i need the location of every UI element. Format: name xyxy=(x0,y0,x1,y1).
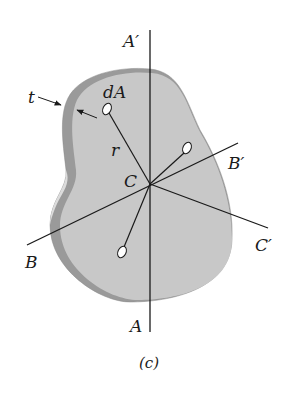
label-radius: r xyxy=(111,140,120,160)
label-axis-a-top: A′ xyxy=(121,31,139,51)
label-center: C xyxy=(124,171,137,191)
label-axis-b-left: B xyxy=(24,252,38,272)
figure-caption: (c) xyxy=(139,354,159,372)
plate-face xyxy=(60,72,232,300)
label-axis-b-right: B′ xyxy=(227,153,244,173)
label-area-element: dA xyxy=(103,82,126,102)
label-thickness: t xyxy=(28,87,35,107)
label-axis-a-bottom: A xyxy=(128,316,142,336)
diagram-canvas: A′ t dA r C B′ C′ B A (c) xyxy=(0,0,299,394)
label-axis-c-right: C′ xyxy=(255,235,272,255)
thickness-arrow-outer xyxy=(38,97,61,105)
